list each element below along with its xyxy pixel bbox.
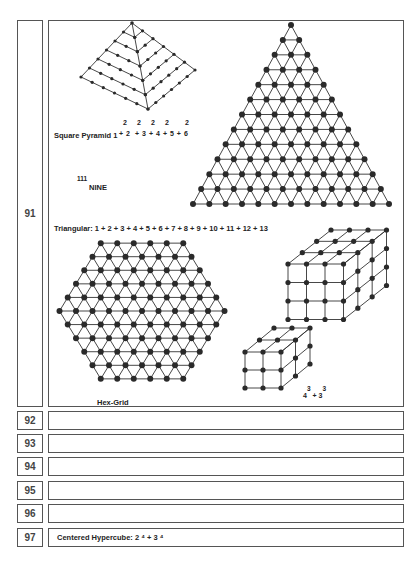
hex-grid-label: Hex-Grid bbox=[97, 398, 129, 407]
row-96-content[interactable] bbox=[48, 504, 404, 523]
cubes-label: 43 + 33 bbox=[303, 389, 326, 399]
row-number-96: 96 bbox=[17, 504, 43, 523]
row-number-text: 91 bbox=[24, 208, 35, 219]
row-91-content: Square Pyramid 1 2 + 2 2 + 3 2 + 4 2 + 5… bbox=[48, 20, 404, 407]
row-number-93: 93 bbox=[17, 434, 43, 453]
row-number-92: 92 bbox=[17, 411, 43, 430]
row-number-95: 95 bbox=[17, 481, 43, 500]
square-pyramid-label: Square Pyramid 1 bbox=[54, 131, 117, 140]
row-number-91: 91 bbox=[17, 20, 43, 407]
row-93-content[interactable] bbox=[48, 434, 404, 453]
triangular-label: Triangular: 1 + 2 + 3 + 4 + 5 + 6 + 7 + … bbox=[54, 224, 268, 233]
row-94-content[interactable] bbox=[48, 457, 404, 476]
row-number-94: 94 bbox=[17, 457, 43, 476]
row-95-content[interactable] bbox=[48, 481, 404, 500]
row-number-97: 97 bbox=[17, 528, 43, 547]
centered-hypercube-label: Centered Hypercube: 2 ⁴ + 3 ⁴ bbox=[57, 533, 163, 542]
figure-canvas bbox=[49, 21, 405, 408]
row-97-content[interactable]: Centered Hypercube: 2 ⁴ + 3 ⁴ bbox=[48, 528, 404, 547]
row-92-content[interactable] bbox=[48, 411, 404, 430]
